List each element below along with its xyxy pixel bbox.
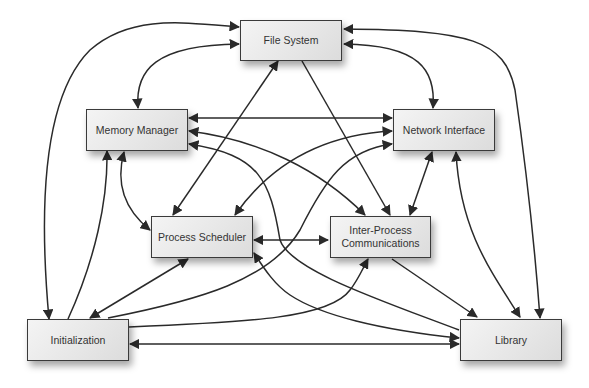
node-label: File System	[264, 34, 319, 47]
edge-init-mm	[68, 151, 107, 319]
node-inter-process-communications: Inter-Process Communications	[330, 216, 431, 258]
dependency-diagram: File System Memory Manager Network Inter…	[0, 0, 589, 388]
edge-mm-fs	[138, 44, 239, 108]
node-label: Process Scheduler	[158, 231, 246, 244]
node-library: Library	[460, 319, 562, 361]
edge-lib-ni	[456, 152, 520, 317]
node-initialization: Initialization	[27, 319, 129, 361]
edge-ps-ni	[235, 131, 392, 215]
edge-init-ps	[90, 259, 188, 318]
edge-ni-fs	[344, 44, 433, 108]
edge-ipc-lib	[392, 259, 477, 317]
edge-mm-ipc	[189, 131, 365, 215]
node-label-line-2: Communications	[341, 237, 419, 250]
node-process-scheduler: Process Scheduler	[151, 216, 253, 258]
edge-init-ipc	[129, 259, 368, 327]
edge-lib-ps	[254, 253, 459, 338]
node-label: Initialization	[51, 334, 106, 347]
node-label: Memory Manager	[96, 124, 178, 137]
edge-ipc-ni	[410, 152, 432, 215]
edge-lib-fs	[344, 29, 540, 318]
node-file-system: File System	[240, 20, 342, 61]
edge-mm-ps	[121, 152, 150, 230]
node-memory-manager: Memory Manager	[86, 109, 188, 151]
edge-init-fs	[44, 23, 239, 319]
node-network-interface: Network Interface	[393, 109, 495, 151]
node-label: Network Interface	[403, 124, 485, 137]
node-label: Library	[495, 334, 527, 347]
node-label-line-1: Inter-Process	[349, 224, 411, 237]
